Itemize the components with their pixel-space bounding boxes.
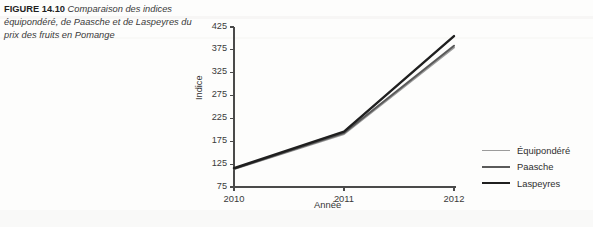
legend-label: Laspeyres [517, 178, 560, 189]
chart: Indice Année 75125175225275325375425 201… [196, 14, 593, 219]
legend-label: Paasche [517, 161, 553, 172]
legend-item[interactable]: Équipondéré [482, 142, 593, 159]
legend-item[interactable]: Laspeyres [482, 175, 593, 192]
legend-label: Équipondéré [517, 145, 570, 156]
legend-color-swatch [482, 150, 510, 151]
legend-item[interactable]: Paasche [482, 159, 593, 176]
axes [230, 27, 456, 191]
figure-caption: FIGURE 14.10 Comparaison des indices équ… [4, 3, 196, 43]
legend-color-swatch [482, 182, 510, 184]
chart-legend: ÉquipondéréPaascheLaspeyres [482, 142, 593, 192]
figure-number: FIGURE 14.10 [4, 4, 65, 14]
page-background: FIGURE 14.10 Comparaison des indices équ… [0, 0, 593, 227]
series-line-laspeyres [234, 36, 454, 168]
data-series [234, 36, 454, 169]
legend-color-swatch [482, 166, 510, 168]
